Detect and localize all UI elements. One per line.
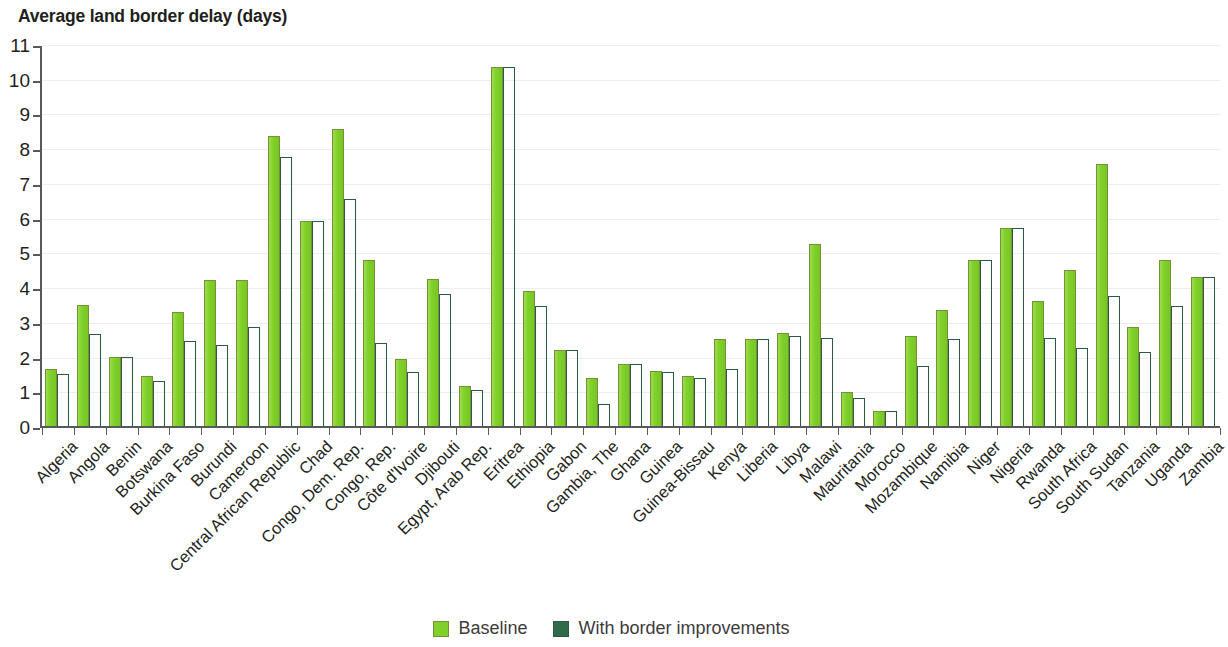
bar-baseline[interactable] [586,378,598,428]
bar-baseline[interactable] [777,333,789,429]
bar-group [551,46,583,428]
x-tick-mark [265,428,266,435]
x-tick-mark [583,428,584,435]
bar-baseline[interactable] [491,67,503,428]
x-tick-mark [74,428,75,435]
bar-improved[interactable] [503,67,515,428]
bar-baseline[interactable] [1191,277,1203,428]
legend-item[interactable]: With border improvements [553,618,789,639]
bar-baseline[interactable] [1096,164,1108,428]
bar-baseline[interactable] [841,392,853,428]
legend-label: Baseline [458,618,527,639]
legend-item[interactable]: Baseline [433,618,527,639]
bar-improved[interactable] [757,339,769,428]
y-tick-mark [33,324,40,326]
bar-baseline[interactable] [1127,327,1139,428]
bar-improved[interactable] [153,381,165,428]
bar-improved[interactable] [280,157,292,428]
bar-baseline[interactable] [650,371,662,428]
bar-improved[interactable] [853,398,865,428]
bar-baseline[interactable] [204,280,216,428]
bar-baseline[interactable] [236,280,248,428]
bar-baseline[interactable] [682,376,694,428]
bar-improved[interactable] [89,334,101,428]
bar-baseline[interactable] [395,359,407,428]
bar-baseline[interactable] [141,376,153,428]
bar-baseline[interactable] [268,136,280,428]
x-tick-mark [965,428,966,435]
bar-improved[interactable] [630,364,642,428]
bar-improved[interactable] [184,341,196,428]
bar-improved[interactable] [1108,296,1120,428]
bar-improved[interactable] [407,372,419,428]
bar-group [424,46,456,428]
bar-group [488,46,520,428]
bar-group-end [1220,46,1221,428]
bar-improved[interactable] [789,336,801,428]
bar-baseline[interactable] [1000,228,1012,428]
bar-baseline[interactable] [459,386,471,428]
bar-baseline[interactable] [554,350,566,428]
bar-improved[interactable] [1139,352,1151,428]
bar-group [138,46,170,428]
bar-improved[interactable] [662,372,674,428]
bar-improved[interactable] [344,199,356,428]
bar-improved[interactable] [1076,348,1088,428]
bar-baseline[interactable] [77,305,89,428]
bar-baseline[interactable] [363,260,375,428]
bar-improved[interactable] [1171,306,1183,428]
x-tick-mark [1220,428,1221,435]
bar-improved[interactable] [121,357,133,428]
y-tick-mark [33,150,40,152]
bar-improved[interactable] [980,260,992,428]
bar-baseline[interactable] [618,364,630,428]
y-tick-mark [33,254,40,256]
bar-improved[interactable] [1203,277,1215,428]
bar-improved[interactable] [1044,338,1056,428]
bar-improved[interactable] [726,369,738,428]
bar-improved[interactable] [821,338,833,428]
bar-baseline[interactable] [332,129,344,428]
bar-group [1156,46,1188,428]
bar-baseline[interactable] [523,291,535,428]
x-tick-mark [711,428,712,435]
bar-improved[interactable] [216,345,228,428]
bar-baseline[interactable] [1064,270,1076,428]
bar-improved[interactable] [471,390,483,428]
bar-improved[interactable] [248,327,260,428]
bar-improved[interactable] [312,221,324,428]
bar-improved[interactable] [375,343,387,428]
bar-group [329,46,361,428]
bar-improved[interactable] [439,294,451,428]
bar-baseline[interactable] [936,310,948,428]
x-tick-mark [742,428,743,435]
bar-baseline[interactable] [1159,260,1171,428]
bar-baseline[interactable] [905,336,917,428]
x-axis-labels: AlgeriaAngolaBeninBotswanaBurkina FasoBu… [42,437,1222,602]
bar-baseline[interactable] [300,221,312,428]
bar-improved[interactable] [917,366,929,429]
bar-improved[interactable] [598,404,610,428]
bar-baseline[interactable] [714,339,726,428]
bar-improved[interactable] [57,374,69,428]
bar-baseline[interactable] [109,357,121,428]
bar-baseline[interactable] [427,279,439,428]
bar-improved[interactable] [535,306,547,428]
bar-baseline[interactable] [45,369,57,428]
bar-baseline[interactable] [172,312,184,428]
bar-group [297,46,329,428]
bar-baseline[interactable] [1032,301,1044,428]
bar-group [169,46,201,428]
bar-group [456,46,488,428]
bar-baseline[interactable] [745,339,757,428]
bar-improved[interactable] [566,350,578,428]
bar-improved[interactable] [948,339,960,428]
bar-baseline[interactable] [968,260,980,428]
y-tick-mark [33,115,40,117]
x-tick-mark [838,428,839,435]
bar-improved[interactable] [1012,228,1024,428]
y-tick-mark [33,220,40,222]
bar-baseline[interactable] [809,244,821,428]
chart-legend: BaselineWith border improvements [0,618,1223,639]
bar-improved[interactable] [694,378,706,428]
